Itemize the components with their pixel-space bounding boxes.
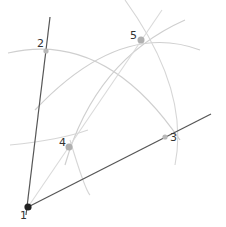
construction-diagram xyxy=(0,0,226,227)
label-point-1: 1 xyxy=(20,210,27,221)
arc-center-1 xyxy=(8,49,180,140)
label-point-4: 4 xyxy=(59,137,66,148)
arc-mid xyxy=(70,140,90,195)
label-point-2: 2 xyxy=(37,38,44,49)
point-2[interactable] xyxy=(43,48,48,53)
point-3[interactable] xyxy=(162,134,167,139)
ray-lower xyxy=(28,114,211,207)
point-5[interactable] xyxy=(138,37,145,44)
label-point-3: 3 xyxy=(170,132,177,143)
arc-center-2 xyxy=(65,20,185,165)
point-4[interactable] xyxy=(66,144,73,151)
label-point-5: 5 xyxy=(130,30,137,41)
